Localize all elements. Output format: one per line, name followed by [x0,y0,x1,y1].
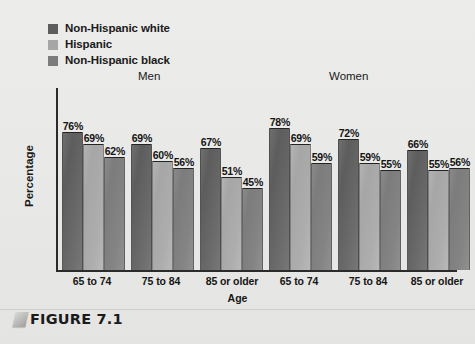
legend-label: Non-Hispanic black [65,55,170,66]
bar-group-men-65-74: 76% 69% 62% [62,88,125,270]
bar-wrap: 59% [311,88,332,270]
bar-non-hispanic-white: 67% [200,148,221,270]
bar-value-label: 56% [174,156,194,168]
bar-value-label: 69% [132,132,152,144]
legend-label: Non-Hispanic white [65,23,170,34]
bar-non-hispanic-black: 59% [311,163,332,270]
bar-value-label: 69% [84,132,104,144]
y-axis-label: Percentage [23,128,35,224]
bar-value-label: 62% [105,145,125,157]
bar-hispanic: 51% [221,177,242,270]
bar-hispanic: 59% [359,163,380,270]
bar-non-hispanic-black: 55% [380,170,401,270]
bar-group-men-85-older: 67% 51% 45% [200,88,263,270]
legend-item-non-hispanic-black: Non-Hispanic black [48,53,170,68]
bar-non-hispanic-white: 69% [131,144,152,270]
bar-value-label: 67% [201,136,221,148]
bar-non-hispanic-white: 66% [407,150,428,270]
bar-non-hispanic-black: 45% [242,188,263,270]
bar-value-label: 56% [450,156,470,168]
bar-wrap: 56% [449,88,470,270]
bar-non-hispanic-black: 56% [173,168,194,270]
x-axis-line [56,270,457,272]
bar-group-women-75-84: 72% 59% 55% [338,88,401,270]
bar-value-label: 55% [429,158,449,170]
legend-swatch-icon [48,56,58,66]
panel-heading-women: Women [329,70,368,82]
bar-wrap: 69% [131,88,152,270]
bar-group-men-75-84: 69% 60% 56% [131,88,194,270]
bar-wrap: 66% [407,88,428,270]
x-axis-label: Age [0,292,475,304]
bar-value-label: 51% [222,165,242,177]
bar-value-label: 72% [339,127,359,139]
plot-area: 76% 69% 62% 69% 60% [56,88,456,270]
bar-wrap: 72% [338,88,359,270]
bar-hispanic: 69% [83,144,104,270]
bar-non-hispanic-white: 72% [338,139,359,270]
bar-wrap: 67% [200,88,221,270]
bar-value-label: 78% [270,116,290,128]
figure-container: Non-Hispanic white Hispanic Non-Hispanic… [0,0,475,344]
chart-legend: Non-Hispanic white Hispanic Non-Hispanic… [48,21,170,69]
legend-item-non-hispanic-white: Non-Hispanic white [48,21,170,36]
bar-wrap: 55% [428,88,449,270]
bar-value-label: 60% [153,149,173,161]
x-tick-label: 65 to 74 [267,275,331,287]
legend-swatch-icon [48,40,58,50]
bar-wrap: 69% [83,88,104,270]
bar-hispanic: 55% [428,170,449,270]
bar-hispanic: 69% [290,144,311,270]
bar-non-hispanic-black: 62% [104,157,125,270]
bar-hispanic: 60% [152,161,173,270]
bar-wrap: 51% [221,88,242,270]
x-tick-label: 85 or older [399,275,475,287]
bar-non-hispanic-white: 78% [269,128,290,270]
figure-number-label: FIGURE 7.1 [30,311,123,327]
bar-group-women-85-older: 66% 55% 56% [407,88,470,270]
figure-banner: FIGURE 7.1 [14,311,123,327]
legend-item-hispanic: Hispanic [48,37,170,52]
bar-value-label: 59% [312,151,332,163]
bar-group-women-65-74: 78% 69% 59% [269,88,332,270]
bar-value-label: 76% [63,120,83,132]
bar-non-hispanic-white: 76% [62,132,83,270]
bar-value-label: 59% [360,151,380,163]
bar-value-label: 66% [408,138,428,150]
x-tick-label: 75 to 84 [129,275,193,287]
figure-caption-area: FIGURE 7.1 Most older rated their health… [0,309,475,344]
bar-wrap: 78% [269,88,290,270]
panel-heading-men: Men [138,70,160,82]
caption-divider [0,309,475,310]
x-tick-label: 75 to 84 [336,275,400,287]
legend-swatch-icon [48,24,58,34]
bar-wrap: 62% [104,88,125,270]
bar-wrap: 56% [173,88,194,270]
bar-wrap: 59% [359,88,380,270]
bar-non-hispanic-black: 56% [449,168,470,270]
bar-wrap: 45% [242,88,263,270]
page-fold-icon [12,312,28,327]
x-tick-label: 85 or older [194,275,270,287]
bar-value-label: 55% [381,158,401,170]
bar-wrap: 76% [62,88,83,270]
x-tick-label: 65 to 74 [60,275,124,287]
bar-wrap: 55% [380,88,401,270]
bar-value-label: 45% [243,176,263,188]
bar-value-label: 69% [291,132,311,144]
legend-label: Hispanic [65,39,112,50]
bar-wrap: 69% [290,88,311,270]
bar-wrap: 60% [152,88,173,270]
